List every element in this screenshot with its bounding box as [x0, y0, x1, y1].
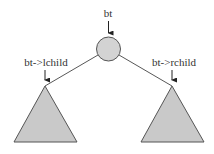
root-pointer-label: bt [104, 7, 113, 19]
root-node [97, 37, 121, 61]
left-child-pointer-label: bt->lchild [24, 56, 68, 68]
binary-tree-diagram: bt bt->lchild bt->rchild [0, 0, 214, 154]
right-child-pointer-label: bt->rchild [152, 56, 197, 68]
left-subtree-triangle [14, 86, 77, 142]
right-subtree-triangle [141, 86, 204, 142]
